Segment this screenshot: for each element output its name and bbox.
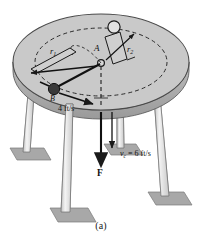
figure-caption: (a): [0, 220, 202, 231]
label-velocity-value: = 6 ft/s: [128, 149, 151, 158]
label-speed-table: 4 ft/s: [58, 104, 74, 113]
figure-svg: A B r1 r2 4 ft/s F vc= 6 ft/s: [0, 0, 202, 237]
label-point-a: A: [93, 43, 100, 53]
label-r1-sub: 1: [53, 51, 56, 57]
table-leg-back-right: [148, 96, 192, 205]
ball-dark-b: [48, 83, 59, 94]
label-force-f: F: [97, 168, 103, 178]
table-leg-front: [50, 104, 96, 222]
label-r2-sub: 2: [130, 49, 133, 55]
ball-light: [108, 21, 120, 33]
physics-figure: A B r1 r2 4 ft/s F vc= 6 ft/s (a): [0, 0, 202, 237]
label-point-b: B: [50, 94, 55, 103]
